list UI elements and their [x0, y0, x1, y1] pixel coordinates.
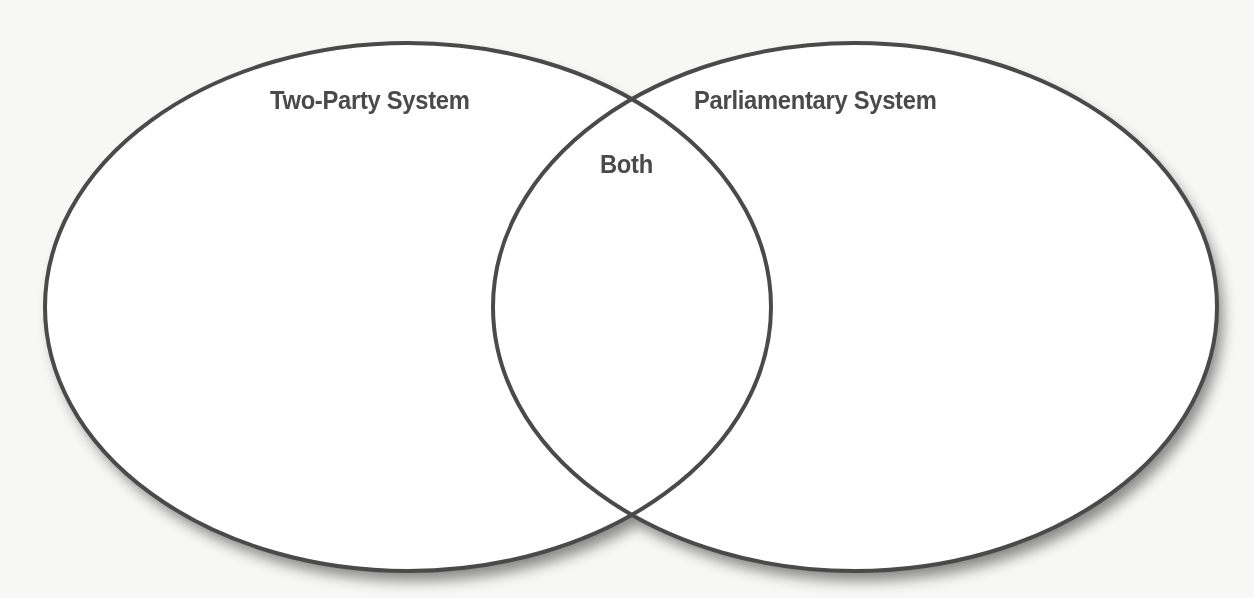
right-set-label: Parliamentary System [694, 86, 937, 115]
intersection-label: Both [600, 150, 653, 179]
right-set-fill [493, 43, 1217, 571]
venn-diagram [0, 0, 1254, 598]
left-set-label: Two-Party System [270, 86, 470, 115]
venn-fill-group [45, 43, 1217, 571]
